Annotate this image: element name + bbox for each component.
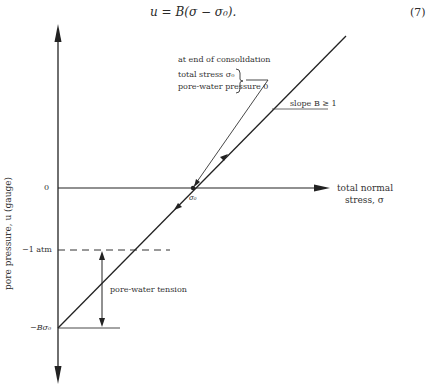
x-tick-sigma0: σ₀	[189, 195, 197, 202]
annotation-pore-water-tension: pore-water tension	[110, 286, 187, 294]
y-axis-label: pore pressure, u (gauge)	[4, 177, 13, 290]
annotation-total-stress: total stress σ₀	[178, 71, 234, 79]
annotation-end-of-consolidation: at end of consolidation	[178, 56, 271, 64]
y-tick-minus-b-sigma0: −Bσ₀	[30, 324, 51, 332]
x-axis-label-line2: stress, σ	[345, 196, 384, 205]
x-axis-label-line1: total normal	[337, 184, 393, 193]
annotation-leader-line	[194, 80, 268, 186]
y-tick-zero: 0	[44, 184, 49, 192]
annotation-pore-water-pressure: pore-water pressure 0	[178, 83, 268, 91]
annotation-slope: slope B ≥ 1	[290, 100, 337, 108]
y-tick-minus-one-atm: −1 atm	[22, 246, 52, 254]
pore-water-tension-arrow	[99, 251, 105, 327]
y-axis	[55, 24, 62, 384]
pore-pressure-line	[58, 36, 346, 328]
